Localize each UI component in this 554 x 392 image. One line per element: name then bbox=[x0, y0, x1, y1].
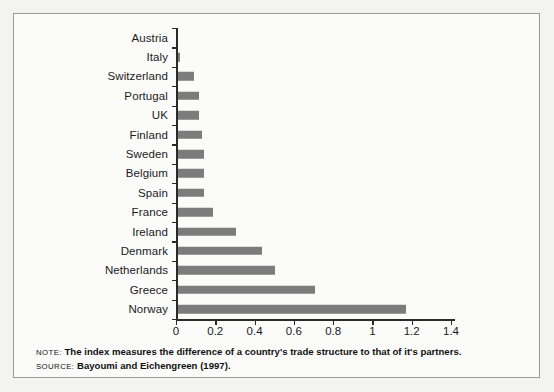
bar-cell bbox=[176, 203, 541, 222]
bar-row: Austria bbox=[14, 28, 541, 47]
figure-container: AustriaItalySwitzerlandPortugalUKFinland… bbox=[0, 0, 554, 392]
bar-uk bbox=[176, 111, 199, 120]
figure-frame: AustriaItalySwitzerlandPortugalUKFinland… bbox=[13, 13, 540, 378]
y-tick bbox=[172, 28, 177, 29]
x-axis-tick-label: 0.6 bbox=[286, 325, 302, 337]
bar-spain bbox=[176, 189, 204, 198]
bar-cell bbox=[176, 164, 541, 183]
figure-footer: NOTE: The index measures the difference … bbox=[36, 345, 526, 373]
y-tick bbox=[172, 67, 177, 68]
bar-norway bbox=[176, 305, 406, 314]
bar-switzerland bbox=[176, 72, 194, 81]
y-tick bbox=[172, 261, 177, 262]
note-tag: NOTE: bbox=[36, 348, 62, 357]
y-tick bbox=[172, 47, 177, 48]
y-axis-label-spain: Spain bbox=[14, 187, 176, 199]
y-tick bbox=[172, 183, 177, 184]
bar-row: Ireland bbox=[14, 222, 541, 241]
bar-row: Portugal bbox=[14, 86, 541, 105]
bar-cell bbox=[176, 86, 541, 105]
source-tag: SOURCE: bbox=[36, 362, 74, 371]
x-axis-spine bbox=[176, 319, 455, 321]
y-axis-label-belgium: Belgium bbox=[14, 167, 176, 179]
y-axis-label-ireland: Ireland bbox=[14, 226, 176, 238]
y-axis-label-italy: Italy bbox=[14, 51, 176, 63]
y-axis-label-austria: Austria bbox=[14, 32, 176, 44]
y-tick bbox=[172, 125, 177, 126]
y-axis-spine bbox=[176, 28, 178, 319]
y-tick bbox=[172, 86, 177, 87]
x-axis-tick-label: 1 bbox=[369, 325, 375, 337]
bar-ireland bbox=[176, 227, 236, 236]
bar-row: Norway bbox=[14, 299, 541, 318]
bar-row: Italy bbox=[14, 47, 541, 66]
y-tick bbox=[172, 164, 177, 165]
y-axis-label-finland: Finland bbox=[14, 129, 176, 141]
y-tick bbox=[172, 106, 177, 107]
bar-row: Denmark bbox=[14, 241, 541, 260]
y-axis-label-norway: Norway bbox=[14, 303, 176, 315]
bar-finland bbox=[176, 130, 202, 139]
bar-cell bbox=[176, 261, 541, 280]
y-axis-label-denmark: Denmark bbox=[14, 245, 176, 257]
bar-belgium bbox=[176, 169, 204, 178]
bar-cell bbox=[176, 183, 541, 202]
bar-cell bbox=[176, 280, 541, 299]
x-axis-tick-label: 0.8 bbox=[325, 325, 341, 337]
note-text: The index measures the difference of a c… bbox=[65, 346, 462, 357]
x-axis-tick-label: 0 bbox=[173, 325, 179, 337]
y-axis-label-portugal: Portugal bbox=[14, 90, 176, 102]
y-tick bbox=[172, 203, 177, 204]
note-line: NOTE: The index measures the difference … bbox=[36, 345, 526, 359]
y-tick bbox=[172, 222, 177, 223]
y-axis-label-france: France bbox=[14, 206, 176, 218]
bar-cell bbox=[176, 241, 541, 260]
bar-denmark bbox=[176, 247, 262, 256]
bar-row: Finland bbox=[14, 125, 541, 144]
y-tick bbox=[172, 144, 177, 145]
bar-rows: AustriaItalySwitzerlandPortugalUKFinland… bbox=[14, 28, 541, 319]
bar-row: France bbox=[14, 203, 541, 222]
bar-row: Switzerland bbox=[14, 67, 541, 86]
bar-netherlands bbox=[176, 266, 275, 275]
y-axis-label-uk: UK bbox=[14, 109, 176, 121]
bar-row: Spain bbox=[14, 183, 541, 202]
bar-portugal bbox=[176, 92, 199, 101]
bar-cell bbox=[176, 47, 541, 66]
plot-area: AustriaItalySwitzerlandPortugalUKFinland… bbox=[14, 14, 541, 334]
y-tick bbox=[172, 241, 177, 242]
bar-cell bbox=[176, 125, 541, 144]
x-axis-tick-label: 0.4 bbox=[247, 325, 263, 337]
bar-greece bbox=[176, 286, 315, 295]
bar-sweden bbox=[176, 150, 204, 159]
y-tick bbox=[172, 280, 177, 281]
y-tick bbox=[172, 300, 177, 301]
bar-row: Greece bbox=[14, 280, 541, 299]
x-axis-tick-label: 1.4 bbox=[443, 325, 459, 337]
bar-cell bbox=[176, 28, 541, 47]
source-line: SOURCE: Bayoumi and Eichengreen (1997). bbox=[36, 359, 526, 373]
y-axis-label-sweden: Sweden bbox=[14, 148, 176, 160]
source-text: Bayoumi and Eichengreen (1997). bbox=[77, 360, 231, 371]
bar-cell bbox=[176, 222, 541, 241]
x-axis-tick-label: 1.2 bbox=[404, 325, 420, 337]
bar-cell bbox=[176, 106, 541, 125]
bar-cell bbox=[176, 67, 541, 86]
y-axis-label-switzerland: Switzerland bbox=[14, 70, 176, 82]
x-axis-tick-label: 0.2 bbox=[207, 325, 223, 337]
y-axis-label-greece: Greece bbox=[14, 284, 176, 296]
bar-row: Belgium bbox=[14, 164, 541, 183]
bar-france bbox=[176, 208, 213, 217]
y-axis-label-netherlands: Netherlands bbox=[14, 264, 176, 276]
bar-cell bbox=[176, 144, 541, 163]
bar-cell bbox=[176, 299, 541, 318]
bar-row: Sweden bbox=[14, 144, 541, 163]
bar-row: Netherlands bbox=[14, 261, 541, 280]
bar-row: UK bbox=[14, 106, 541, 125]
